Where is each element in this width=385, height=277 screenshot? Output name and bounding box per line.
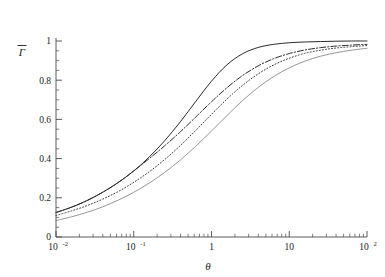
- ticks-layer: [56, 41, 367, 237]
- x-tick-label-exponent: -1: [140, 240, 145, 247]
- x-tick-label: 10: [285, 242, 295, 252]
- y-axis-title: Γ: [18, 46, 27, 59]
- y-tick-label: 0.6: [39, 115, 51, 125]
- x-tick-label: 102: [359, 240, 377, 252]
- y-tick-label: 0.4: [39, 154, 51, 164]
- chart-figure: 10-210-111010200.20.40.60.81 Γ θ: [0, 0, 385, 277]
- curves-layer: [56, 41, 367, 221]
- y-tick-label: 1: [46, 36, 51, 46]
- x-tick-label-mantissa: 10: [48, 242, 58, 252]
- x-tick-label-mantissa: 10: [359, 242, 369, 252]
- x-tick-label-mantissa: 1: [209, 242, 214, 252]
- x-axis-title-text: θ: [205, 260, 211, 272]
- x-tick-label: 10-2: [48, 240, 68, 252]
- x-axis-title: θ: [205, 260, 211, 272]
- x-tick-label: 10-1: [126, 240, 146, 252]
- y-tick-label: 0.8: [39, 76, 51, 86]
- y-axis-title-text: Γ: [18, 46, 26, 58]
- x-tick-label: 1: [209, 242, 214, 252]
- chart-series-curve-1: [56, 41, 367, 213]
- x-tick-label-exponent: -2: [63, 240, 68, 247]
- y-tick-label: 0: [46, 232, 51, 242]
- chart-series-curve-4: [56, 48, 367, 220]
- x-tick-label-exponent: 2: [374, 240, 377, 247]
- plot-canvas: 10-210-111010200.20.40.60.81 Γ θ: [0, 0, 385, 277]
- x-tick-label-mantissa: 10: [285, 242, 295, 252]
- y-tick-label: 0.2: [39, 193, 51, 203]
- chart-series-curve-2: [56, 44, 367, 212]
- axis-tick-labels: 10-210-111010200.20.40.60.81: [39, 36, 377, 252]
- x-tick-label-mantissa: 10: [126, 242, 136, 252]
